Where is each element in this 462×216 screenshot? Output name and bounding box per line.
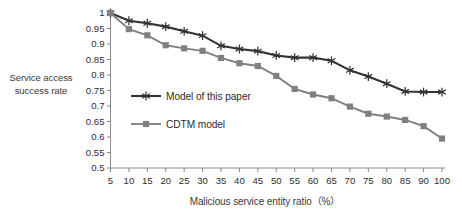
series-model-of-this-paper	[107, 9, 446, 97]
data-point-marker	[199, 48, 205, 54]
x-tick-label: 65	[326, 175, 337, 186]
y-tick-label: 0.55	[86, 147, 105, 158]
y-tick-label: 0.9	[91, 38, 104, 49]
data-point-marker	[218, 55, 224, 61]
data-point-marker	[402, 117, 408, 123]
data-point-marker	[107, 10, 113, 16]
data-point-marker	[163, 42, 169, 48]
x-tick-label: 35	[216, 175, 227, 186]
data-point-marker	[420, 123, 426, 129]
x-tick-label: 30	[197, 175, 208, 186]
x-tick-label: 70	[345, 175, 356, 186]
series-layer	[107, 9, 446, 142]
y-tick-label: 0.5	[91, 162, 104, 173]
data-point-marker	[328, 95, 334, 101]
data-point-marker	[144, 32, 150, 38]
chart-container: Service access success rate Malicious se…	[0, 0, 462, 216]
data-point-marker	[310, 91, 316, 97]
data-point-marker	[273, 73, 279, 79]
legend-label: CDTM model	[166, 119, 225, 130]
x-tick-label: 85	[400, 175, 411, 186]
x-tick-label: 40	[234, 175, 245, 186]
data-point-marker	[365, 111, 371, 117]
x-tick-label: 90	[418, 175, 429, 186]
y-tick-label: 1	[99, 7, 104, 18]
x-tick-label: 20	[160, 175, 171, 186]
y-axis: 10.950.90.850.80.750.70.650.60.550.5	[86, 7, 111, 173]
plot-area: 10.950.90.850.80.750.70.650.60.550.5 510…	[0, 0, 462, 216]
x-tick-label: 80	[381, 175, 392, 186]
data-point-marker	[126, 26, 132, 32]
data-point-marker	[292, 86, 298, 92]
y-tick-label: 0.75	[86, 85, 105, 96]
x-tick-label: 60	[308, 175, 319, 186]
data-point-marker	[347, 104, 353, 110]
legend-item[interactable]: CDTM model	[131, 119, 225, 130]
series-cdtm-model	[107, 10, 445, 142]
x-tick-label: 100	[434, 175, 450, 186]
y-tick-label: 0.95	[86, 23, 105, 34]
legend-item[interactable]: Model of this paper	[131, 91, 251, 102]
legend-label: Model of this paper	[166, 91, 251, 102]
y-tick-label: 0.6	[91, 131, 104, 142]
x-tick-label: 15	[142, 175, 153, 186]
data-point-marker	[384, 113, 390, 119]
x-tick-label: 75	[363, 175, 374, 186]
x-tick-label: 5	[108, 175, 113, 186]
x-tick-label: 45	[252, 175, 263, 186]
data-point-marker	[255, 63, 261, 69]
data-point-marker	[236, 60, 242, 66]
chart-legend: Model of this paperCDTM model	[131, 91, 251, 130]
x-tick-label: 55	[289, 175, 300, 186]
x-axis: 51015202530354045505560657075808590100	[108, 168, 450, 186]
x-tick-label: 10	[124, 175, 135, 186]
y-tick-label: 0.85	[86, 54, 105, 65]
x-tick-label: 50	[271, 175, 282, 186]
y-tick-label: 0.7	[91, 100, 104, 111]
y-tick-label: 0.65	[86, 116, 105, 127]
data-point-marker	[143, 121, 149, 127]
y-tick-label: 0.8	[91, 69, 104, 80]
x-tick-label: 25	[179, 175, 190, 186]
data-point-marker	[181, 45, 187, 51]
data-point-marker	[439, 135, 445, 141]
